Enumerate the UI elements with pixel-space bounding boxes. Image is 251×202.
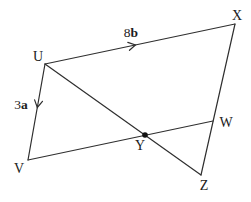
vertex-label-U: U [33, 49, 43, 64]
side-label-3a: 3a [14, 97, 28, 112]
geometry-figure: UXVWYZ8b3a [0, 0, 251, 202]
vertex-label-V: V [14, 161, 24, 176]
geometry-figure-svg: UXVWYZ8b3a [0, 0, 251, 202]
vertex-label-Y: Y [135, 138, 145, 153]
segment-XZ [201, 24, 235, 175]
vertex-label-Z: Z [200, 178, 209, 193]
segment-UX [45, 24, 235, 64]
side-label-8b: 8b [124, 25, 138, 40]
vertex-label-W: W [219, 115, 233, 130]
segment-VW [28, 121, 213, 160]
segment-UV [28, 64, 45, 160]
vertex-label-X: X [232, 8, 242, 23]
intersection-dot-Y [142, 132, 148, 138]
segment-UZ [45, 64, 201, 175]
